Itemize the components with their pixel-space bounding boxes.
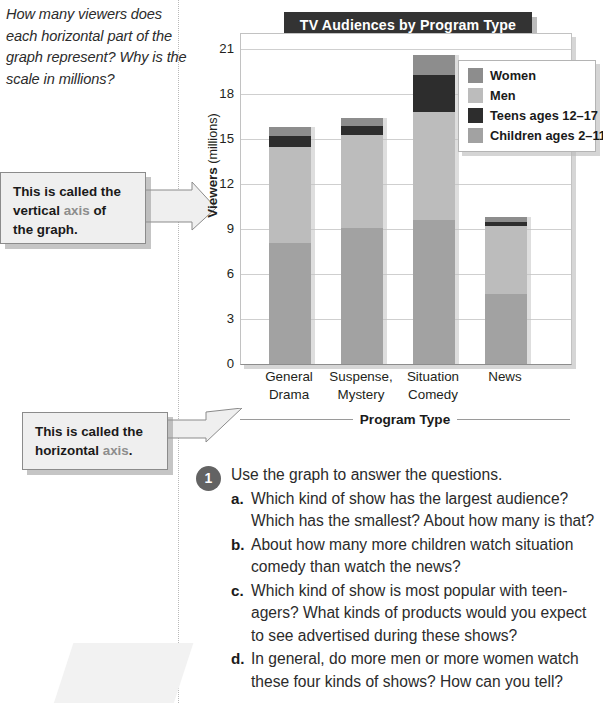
tv-audiences-chart: TV Audiences by Program Type 03691215182…	[196, 8, 596, 448]
y-tick-label: 3	[227, 311, 234, 326]
bar-situation-comedy	[413, 55, 455, 364]
bar-segment	[413, 55, 455, 75]
bar-segment	[269, 147, 311, 243]
exercise-items: a.Which kind of show has the largest aud…	[196, 488, 596, 694]
exercise-item: b.About how many more children watch sit…	[231, 534, 596, 579]
exercise-item-text: Which kind of show is most popular with …	[251, 580, 596, 648]
y-tick-label: 18	[219, 86, 234, 101]
legend-item: Children ages 2–11	[468, 128, 587, 143]
vertical-axis-callout: This is called the vertical axis of the …	[0, 172, 146, 244]
exercise-item: a.Which kind of show has the largest aud…	[231, 488, 596, 533]
bar-segment	[341, 135, 383, 228]
callout-vertical-line1: This is called the	[13, 182, 135, 201]
chart-legend: WomenMenTeens ages 12–17Children ages 2–…	[458, 60, 596, 152]
exercise-item-text: In general, do more men or more women wa…	[251, 648, 596, 693]
callout-horizontal-line2: horizontal axis.	[35, 441, 157, 460]
bar-segment	[269, 127, 311, 136]
x-axis-title: Program Type	[360, 412, 450, 427]
legend-swatch-icon	[468, 108, 483, 123]
legend-swatch-icon	[468, 88, 483, 103]
bar-segment	[485, 226, 527, 294]
legend-label: Teens ages 12–17	[490, 108, 598, 123]
y-axis-title-main: Viewers	[205, 167, 220, 217]
y-tick-label: 9	[227, 221, 234, 236]
exercise-item-text: Which kind of show has the largest audie…	[251, 488, 596, 533]
x-tick-label-line: News	[459, 368, 551, 386]
y-tick-label: 6	[227, 266, 234, 281]
bar-segment	[413, 112, 455, 220]
bar-segment	[485, 294, 527, 365]
y-axis-title-unit: (millions)	[206, 113, 220, 167]
bar-general-drama	[269, 127, 311, 364]
page-divider	[178, 0, 179, 703]
legend-item: Men	[468, 88, 587, 103]
bar-suspense-mystery	[341, 118, 383, 364]
bar-news	[485, 217, 527, 364]
exercise-item-text: About how many more children watch situa…	[251, 534, 596, 579]
exercise-item: d.In general, do more men or more women …	[231, 648, 596, 693]
x-axis-rule-left	[240, 419, 353, 420]
intro-question: How many viewers does each horizontal pa…	[6, 4, 196, 90]
legend-swatch-icon	[468, 68, 483, 83]
exercise-item-letter: a.	[231, 488, 251, 533]
exercise-stem: Use the graph to answer the questions.	[231, 464, 596, 487]
x-tick-label-line: Comedy	[387, 386, 479, 404]
bar-segment	[413, 220, 455, 364]
legend-swatch-icon	[468, 128, 483, 143]
legend-label: Children ages 2–11	[490, 128, 603, 143]
bar-segment	[269, 243, 311, 365]
bar-segment	[269, 136, 311, 147]
legend-item: Teens ages 12–17	[468, 108, 587, 123]
x-axis-rule-right	[457, 419, 570, 420]
gridline	[241, 49, 571, 50]
horizontal-axis-callout: This is called the horizontal axis.	[22, 412, 168, 470]
page-corner-smudge	[51, 643, 194, 703]
bar-segment	[341, 126, 383, 135]
exercise-item-letter: c.	[231, 580, 251, 648]
x-axis-title-row: Program Type	[240, 412, 570, 427]
y-tick-label: 12	[219, 176, 234, 191]
bar-segment	[485, 222, 527, 227]
y-axis-title: Viewers (millions)	[205, 76, 220, 256]
y-tick-label: 21	[219, 41, 234, 56]
bar-segment	[413, 75, 455, 113]
exercise-item: c.Which kind of show is most popular wit…	[231, 580, 596, 648]
exercise-item-letter: d.	[231, 648, 251, 693]
y-tick-label: 15	[219, 131, 234, 146]
legend-label: Men	[490, 88, 516, 103]
bar-segment	[485, 217, 527, 222]
exercise-item-letter: b.	[231, 534, 251, 579]
exercise-block: 1 Use the graph to answer the questions.…	[196, 464, 596, 693]
y-tick-label: 0	[227, 356, 234, 371]
callout-vertical-keyword: axis	[64, 203, 90, 218]
callout-vertical-line3: the graph.	[13, 220, 135, 239]
callout-horizontal-line1: This is called the	[35, 422, 157, 441]
legend-item: Women	[468, 68, 587, 83]
x-tick-label: News	[459, 368, 551, 386]
legend-label: Women	[490, 68, 536, 83]
callout-vertical-line2: vertical axis of	[13, 201, 135, 220]
callout-horizontal-keyword: axis	[103, 443, 129, 458]
bar-segment	[341, 228, 383, 365]
exercise-number-badge: 1	[196, 466, 221, 491]
bar-segment	[341, 118, 383, 126]
